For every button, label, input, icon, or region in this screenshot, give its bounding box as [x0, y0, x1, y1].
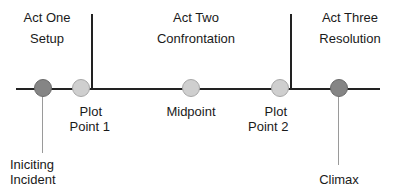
plot-point-2-label-line2: Point 2: [248, 119, 288, 134]
plot-point-2-point: [271, 79, 289, 97]
act-three-subtitle: Resolution: [310, 31, 390, 46]
plot-point-1-point: [72, 79, 90, 97]
climax-leader: [338, 97, 339, 165]
plot-point-1-label-line1: Plot: [56, 104, 110, 119]
plot-point-1-label: Plot Point 1: [56, 104, 110, 134]
plot-point-1-label-line2: Point 1: [56, 119, 110, 134]
act-two-subtitle: Confrontation: [146, 31, 246, 46]
act-divider-2: [290, 14, 292, 89]
inciting-incident-label-line1: Iniciting: [10, 157, 74, 172]
plot-point-2-label: Plot Point 2: [248, 104, 288, 134]
act-divider-1: [91, 14, 93, 89]
act-three-title: Act Three: [310, 10, 390, 25]
midpoint-label: Midpoint: [156, 104, 226, 119]
act-one-subtitle: Setup: [14, 31, 80, 46]
midpoint-label-text: Midpoint: [166, 104, 215, 119]
act-one-header: Act One Setup: [14, 10, 80, 46]
inciting-incident-leader: [42, 97, 43, 153]
act-two-header: Act Two Confrontation: [146, 10, 246, 46]
act-two-title: Act Two: [146, 10, 246, 25]
act-one-title: Act One: [14, 10, 80, 25]
act-three-header: Act Three Resolution: [310, 10, 390, 46]
midpoint-point: [182, 79, 200, 97]
climax-label: Climax: [310, 172, 368, 187]
climax-label-text: Climax: [319, 172, 359, 187]
inciting-incident-label: Iniciting Incident: [10, 157, 74, 187]
inciting-incident-label-line2: Incident: [10, 172, 74, 187]
climax-point: [330, 79, 348, 97]
plot-point-2-label-line1: Plot: [248, 104, 288, 119]
inciting-incident-point: [34, 79, 52, 97]
